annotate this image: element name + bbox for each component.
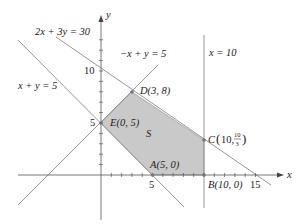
svg-text:): )	[242, 131, 246, 146]
y-tick-10: 10	[84, 65, 95, 76]
svg-text:3: 3	[236, 140, 239, 147]
label-2x-3y-30: 2x + 3y = 30	[35, 26, 91, 37]
vertex-label-d: D(3, 8)	[139, 85, 171, 97]
x-tick-15: 15	[250, 179, 261, 190]
vertex-label-e: E(0, 5)	[109, 117, 140, 129]
y-tick-5: 5	[90, 117, 95, 128]
svg-text:C: C	[208, 134, 216, 145]
x-tick-5: 5	[149, 179, 154, 190]
feasible-region-diagram: x y 5 15 5 10 2x + 3y = 30 −x + y = 5 x …	[0, 0, 301, 224]
label-neg-x-y-5: −x + y = 5	[120, 48, 166, 59]
x-axis-arrow-icon	[277, 173, 284, 178]
vertex-label-a: A(5, 0)	[149, 159, 180, 171]
svg-text:10,: 10,	[221, 134, 234, 145]
label-x-10: x = 10	[208, 47, 237, 58]
y-axis-arrow-icon	[99, 15, 104, 22]
region-label-s: S	[146, 128, 152, 139]
x-axis-label: x	[286, 169, 292, 180]
vertex-label-b: B(10, 0)	[208, 179, 243, 191]
vertex-label-c: C ( 10, 10 3 )	[208, 131, 246, 147]
svg-text:10: 10	[234, 131, 241, 138]
y-axis-label: y	[105, 9, 111, 20]
svg-text:(: (	[216, 131, 220, 146]
label-x-y-5: x + y = 5	[17, 80, 57, 91]
